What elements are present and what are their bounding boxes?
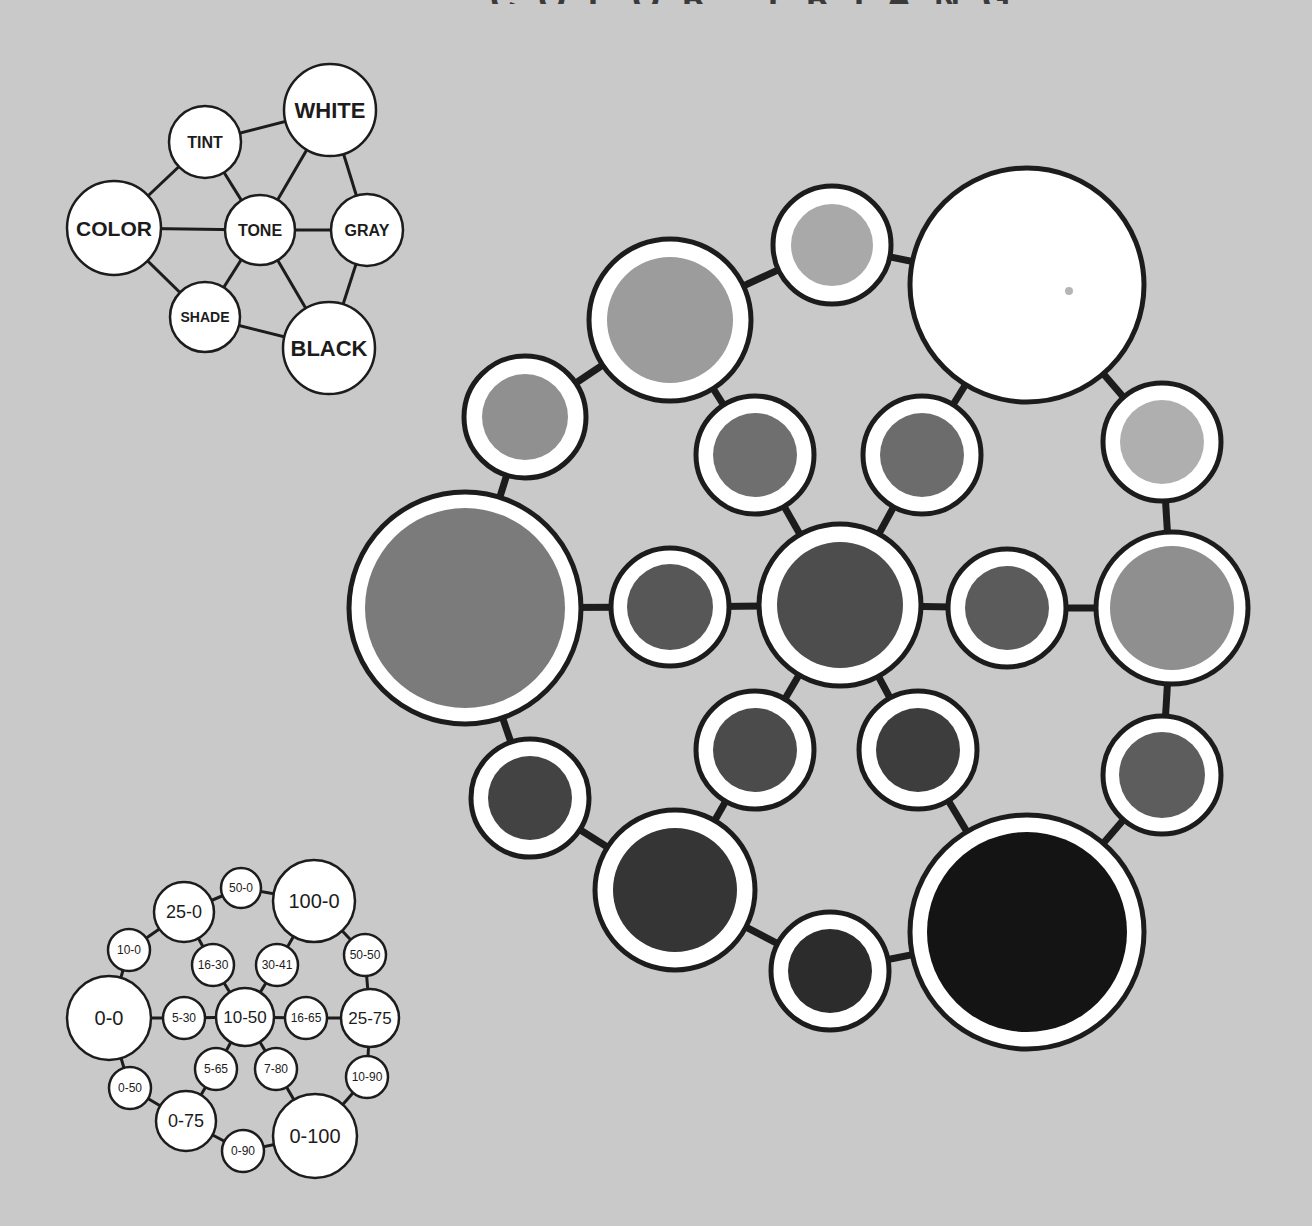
swatch-fill [607,257,733,383]
key-label: 50-0 [229,881,253,895]
key-label: 0-0 [95,1007,124,1029]
color-triangle-diagram [349,168,1248,1049]
swatch-fill [1119,732,1205,818]
key-label: 0-50 [118,1081,142,1095]
swatch-fill [1110,546,1234,670]
key-node-k16-30: 16-30 [192,944,234,986]
swatch-16-65 [948,549,1066,667]
key-label: 5-65 [204,1062,228,1076]
key-node-k25-75: 25-75 [341,989,399,1047]
key-node-k0-0: 0-0 [67,976,151,1060]
swatch-0-0 [349,492,581,724]
swatch-fill [965,566,1049,650]
key-node-k16-65: 16-65 [285,997,327,1039]
key-label: 16-65 [291,1011,322,1025]
key-node-k5-30: 5-30 [163,997,205,1039]
swatch-fill [1120,400,1204,484]
key-node-k5-65: 5-65 [195,1048,237,1090]
key-diagram: 100-050-025-010-016-3030-4150-500-05-301… [67,860,399,1178]
key-node-k0-50: 0-50 [109,1067,151,1109]
key-label: 30-41 [262,958,293,972]
concept-diagram: WHITETINTCOLORTONEGRAYSHADEBLACK [67,64,403,394]
concept-label: SHADE [180,309,229,325]
concept-node-black: BLACK [283,302,375,394]
swatch-0-90 [771,912,889,1030]
concept-label: WHITE [295,98,366,123]
concept-label: TONE [238,222,282,239]
swatch-fill [791,204,873,286]
key-label: 16-30 [198,958,229,972]
swatch-fill [777,542,903,668]
concept-node-shade: SHADE [170,282,240,352]
key-node-k7-80: 7-80 [255,1048,297,1090]
key-node-k0-90: 0-90 [222,1130,264,1172]
concept-node-white: WHITE [284,64,376,156]
swatch-0-100 [910,815,1144,1049]
key-node-k10-0: 10-0 [108,929,150,971]
key-node-k25-0: 25-0 [154,882,214,942]
key-label: 25-75 [348,1009,391,1028]
white-swatch-dot [1065,287,1073,295]
concept-node-tone: TONE [225,195,295,265]
swatch-fill [365,508,565,708]
swatch-fill [788,929,872,1013]
swatch-5-30 [611,548,729,666]
swatch-fill [713,708,797,792]
swatch-7-80 [859,691,977,809]
swatch-10-90 [1103,716,1221,834]
key-label: 10-50 [223,1008,266,1027]
swatch-fill [927,832,1127,1032]
swatch-fill [613,828,737,952]
key-node-k10-50: 10-50 [216,988,274,1046]
swatch-0-50 [471,739,589,857]
diagram-canvas: WHITETINTCOLORTONEGRAYSHADEBLACK 100-050… [0,0,1312,1226]
swatch-fill [713,413,797,497]
concept-node-color: COLOR [67,181,161,275]
key-label: 7-80 [264,1062,288,1076]
swatch-16-30 [696,396,814,514]
key-node-k50-0: 50-0 [221,868,261,908]
key-node-k0-75: 0-75 [156,1091,216,1151]
concept-node-gray: GRAY [331,194,403,266]
key-label: 50-50 [350,948,381,962]
swatch-fill [880,413,964,497]
key-node-k10-90: 10-90 [346,1056,388,1098]
swatch-25-0 [589,239,751,401]
swatch-fill [482,374,568,460]
swatch-10-50 [759,524,921,686]
key-node-k50-50: 50-50 [344,934,386,976]
key-node-k100-0: 100-0 [273,860,355,942]
key-label: 5-30 [172,1011,196,1025]
swatch-fill [876,708,960,792]
key-label: 25-0 [166,902,202,922]
key-label: 100-0 [288,890,339,912]
concept-node-tint: TINT [169,106,241,178]
color-triangle-page: COLOR TRIANGLE WHITETINTCOLORTONEGRAYSHA… [0,0,1312,1226]
swatch-10-0 [464,356,586,478]
key-label: 0-100 [289,1125,340,1147]
swatch-0-75 [595,810,755,970]
swatch-fill [627,564,713,650]
concept-label: GRAY [345,222,390,239]
key-label: 0-75 [168,1111,204,1131]
key-node-k30-41: 30-41 [256,944,298,986]
swatch-50-0 [773,186,891,304]
key-node-k0-100: 0-100 [273,1094,357,1178]
concept-label: TINT [187,134,223,151]
key-label: 10-90 [352,1070,383,1084]
key-label: 0-90 [231,1144,255,1158]
swatch-25-75 [1096,532,1248,684]
concept-label: COLOR [76,217,152,240]
swatch-100-0 [910,168,1144,402]
concept-label: BLACK [291,336,368,361]
key-label: 10-0 [117,943,141,957]
swatch-fill [488,756,572,840]
swatch-50-50 [1103,383,1221,501]
swatch-30-41 [863,396,981,514]
swatch-5-65 [696,691,814,809]
